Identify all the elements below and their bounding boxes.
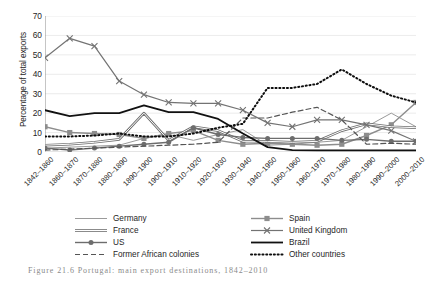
y-tick-label: 20: [33, 109, 42, 117]
legend-item-germany[interactable]: Germany: [74, 212, 199, 224]
x-axis-tick-labels: 1842–18601860–18701870–18801880–18901890…: [45, 155, 416, 211]
legend-swatch-icon: [74, 225, 108, 236]
legend-item-united-kingdom[interactable]: United Kingdom: [250, 224, 347, 236]
legend-item-label: France: [113, 225, 138, 236]
legend-item-france[interactable]: France: [74, 224, 199, 236]
chart-legend: GermanyFranceUSFormer African colonies S…: [0, 212, 428, 260]
y-tick-label: 50: [33, 51, 42, 59]
y-axis-tick-labels: 010203040506070: [20, 10, 42, 158]
plot-svg: [45, 16, 416, 152]
legend-item-label: Spain: [289, 213, 310, 224]
y-tick-label: 60: [33, 31, 42, 39]
series-brazil: [45, 105, 416, 150]
legend-swatch-icon: [74, 213, 108, 224]
y-tick-label: 70: [33, 12, 42, 20]
legend-item-label: United Kingdom: [289, 225, 347, 236]
y-tick-label: 10: [33, 128, 42, 136]
plot-area: [45, 16, 416, 152]
legend-swatch-icon: [74, 249, 108, 260]
figure-container: Percentage of total exports 010203040506…: [0, 0, 428, 285]
legend-swatch-icon: [250, 225, 284, 236]
legend-item-other-countries[interactable]: Other countries: [250, 248, 347, 260]
legend-item-label: Brazil: [289, 237, 309, 248]
series-united-kingdom: [45, 35, 416, 144]
legend-item-label: Germany: [113, 213, 147, 224]
y-tick-label: 30: [33, 90, 42, 98]
legend-swatch-icon: [250, 213, 284, 224]
legend-item-brazil[interactable]: Brazil: [250, 236, 347, 248]
y-tick-label: 40: [33, 70, 42, 78]
legend-item-former-african-colonies[interactable]: Former African colonies: [74, 248, 199, 260]
line-chart: Percentage of total exports 010203040506…: [0, 0, 428, 212]
legend-column-right: SpainUnited KingdomBrazilOther countries: [250, 212, 347, 260]
legend-item-label: Former African colonies: [113, 249, 199, 260]
legend-swatch-icon: [250, 249, 284, 260]
legend-item-spain[interactable]: Spain: [250, 212, 347, 224]
legend-item-label: US: [113, 237, 124, 248]
figure-caption: Figure 21.6 Portugal: main export destin…: [28, 266, 408, 275]
legend-swatch-icon: [250, 237, 284, 248]
legend-swatch-icon: [74, 237, 108, 248]
legend-item-us[interactable]: US: [74, 236, 199, 248]
legend-column-left: GermanyFranceUSFormer African colonies: [74, 212, 199, 260]
legend-item-label: Other countries: [289, 249, 345, 260]
y-tick-label: 0: [37, 148, 42, 156]
series-france: [45, 113, 416, 145]
